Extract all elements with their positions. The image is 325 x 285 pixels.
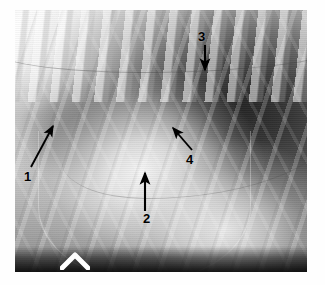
annotation-label-2: 2 (143, 212, 150, 225)
radiograph-figure: 1 2 3 4 (0, 0, 325, 285)
collimation-band (15, 246, 307, 272)
film-vignette (15, 10, 307, 272)
annotation-label-4: 4 (186, 153, 193, 166)
positioning-marker-chevron (60, 252, 90, 270)
annotation-label-3: 3 (198, 30, 205, 43)
annotation-label-1: 1 (24, 170, 31, 183)
radiograph-plate (15, 10, 307, 272)
